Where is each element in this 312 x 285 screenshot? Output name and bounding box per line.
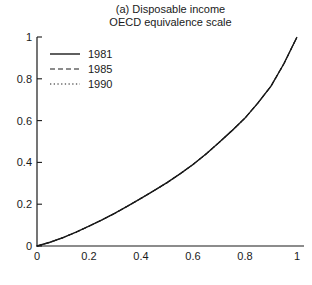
legend-label: 1985 (88, 63, 112, 75)
legend-label: 1990 (88, 78, 112, 90)
series-lines (37, 37, 297, 246)
x-tick-label: 0.6 (185, 250, 200, 262)
plot-area: 00.20.40.60.81 00.20.40.60.81 1981198519… (0, 0, 312, 285)
y-tick-label: 0.2 (17, 198, 32, 210)
y-axis-ticks (37, 37, 42, 246)
x-tick-label: 0.4 (133, 250, 148, 262)
x-tick-label: 0 (34, 250, 40, 262)
y-tick-label: 0.6 (17, 115, 32, 127)
series-line-1985 (37, 37, 297, 246)
y-tick-label: 0.8 (17, 73, 32, 85)
x-axis-labels: 00.20.40.60.81 (34, 250, 300, 262)
y-tick-label: 0 (26, 240, 32, 252)
x-tick-label: 0.8 (237, 250, 252, 262)
y-axis-labels: 00.20.40.60.81 (17, 31, 32, 252)
y-tick-label: 1 (26, 31, 32, 43)
series-line-1990 (37, 37, 297, 246)
x-tick-label: 0.2 (81, 250, 96, 262)
legend: 198119851990 (50, 48, 112, 90)
y-tick-label: 0.4 (17, 156, 32, 168)
lorenz-curve-figure: (a) Disposable income OECD equivalence s… (0, 0, 312, 285)
x-tick-label: 1 (294, 250, 300, 262)
series-line-1981 (37, 37, 297, 246)
legend-label: 1981 (88, 48, 112, 60)
axes (36, 37, 304, 247)
